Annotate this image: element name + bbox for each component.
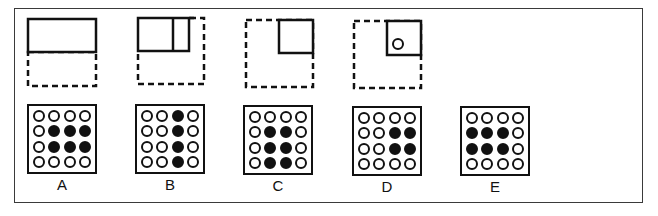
hole-filled-icon <box>280 157 292 169</box>
hole-filled-icon <box>466 143 478 155</box>
option-label: D <box>352 179 422 195</box>
hole-empty-icon <box>141 110 153 122</box>
fold-step-3 <box>246 20 314 88</box>
hole-empty-icon <box>404 112 416 124</box>
hole-empty-icon <box>64 110 76 122</box>
fold-step-2-drawing <box>138 18 206 86</box>
hole-filled-icon <box>79 141 91 153</box>
hole-empty-icon <box>249 126 261 138</box>
folded-paper-square <box>279 20 313 53</box>
hole-filled-icon <box>172 141 184 153</box>
hole-grid <box>135 104 205 174</box>
hole-empty-icon <box>512 127 524 139</box>
hole-filled-icon <box>389 143 401 155</box>
hole-empty-icon <box>373 127 385 139</box>
hole-empty-icon <box>404 158 416 170</box>
dashed-outline <box>28 52 96 86</box>
hole-empty-icon <box>389 112 401 124</box>
hole-empty-icon <box>33 110 45 122</box>
hole-filled-icon <box>264 142 276 154</box>
hole-filled-icon <box>172 110 184 122</box>
hole-filled-icon <box>172 156 184 168</box>
hole-empty-icon <box>249 142 261 154</box>
hole-empty-icon <box>497 112 509 124</box>
hole-empty-icon <box>512 143 524 155</box>
hole-empty-icon <box>373 143 385 155</box>
hole-empty-icon <box>141 156 153 168</box>
hole-empty-icon <box>481 158 493 170</box>
hole-empty-icon <box>141 125 153 137</box>
hole-filled-icon <box>48 141 60 153</box>
hole-empty-icon <box>33 125 45 137</box>
hole-filled-icon <box>64 141 76 153</box>
fold-step-2 <box>138 18 206 86</box>
fold-step-3-drawing <box>246 20 314 88</box>
hole-filled-icon <box>264 126 276 138</box>
fold-step-1 <box>28 19 96 87</box>
hole-empty-icon <box>295 157 307 169</box>
hole-empty-icon <box>295 111 307 123</box>
hole-empty-icon <box>156 156 168 168</box>
punched-hole-icon <box>393 39 403 49</box>
hole-filled-icon <box>79 125 91 137</box>
hole-empty-icon <box>249 111 261 123</box>
folded-paper-square <box>387 21 421 55</box>
hole-filled-icon <box>497 143 509 155</box>
fold-step-4 <box>354 21 422 89</box>
hole-empty-icon <box>466 112 478 124</box>
hole-empty-icon <box>156 141 168 153</box>
hole-grid <box>243 105 313 175</box>
option-label: C <box>243 178 313 194</box>
hole-empty-icon <box>358 127 370 139</box>
hole-filled-icon <box>172 125 184 137</box>
hole-filled-icon <box>466 127 478 139</box>
option-label: A <box>27 177 97 193</box>
hole-empty-icon <box>79 156 91 168</box>
hole-empty-icon <box>373 112 385 124</box>
hole-empty-icon <box>358 112 370 124</box>
hole-grid <box>460 106 530 176</box>
fold-step-4-drawing <box>354 21 422 89</box>
hole-filled-icon <box>264 157 276 169</box>
hole-filled-icon <box>280 126 292 138</box>
hole-empty-icon <box>512 158 524 170</box>
hole-empty-icon <box>79 110 91 122</box>
hole-filled-icon <box>497 127 509 139</box>
hole-empty-icon <box>156 110 168 122</box>
hole-filled-icon <box>48 125 60 137</box>
hole-filled-icon <box>481 127 493 139</box>
hole-filled-icon <box>64 125 76 137</box>
hole-empty-icon <box>466 158 478 170</box>
hole-empty-icon <box>249 157 261 169</box>
option-b[interactable]: B <box>135 104 205 193</box>
hole-empty-icon <box>358 143 370 155</box>
hole-empty-icon <box>64 156 76 168</box>
hole-empty-icon <box>48 156 60 168</box>
hole-grid <box>352 106 422 176</box>
hole-grid <box>27 104 97 174</box>
hole-empty-icon <box>295 126 307 138</box>
hole-empty-icon <box>264 111 276 123</box>
option-a[interactable]: A <box>27 104 97 193</box>
hole-filled-icon <box>404 143 416 155</box>
hole-empty-icon <box>358 158 370 170</box>
hole-empty-icon <box>280 111 292 123</box>
option-label: E <box>460 179 530 195</box>
hole-empty-icon <box>187 141 199 153</box>
option-e[interactable]: E <box>460 106 530 195</box>
hole-empty-icon <box>295 142 307 154</box>
hole-empty-icon <box>187 125 199 137</box>
hole-empty-icon <box>156 125 168 137</box>
hole-empty-icon <box>141 141 153 153</box>
folded-paper-rect <box>28 19 96 52</box>
hole-empty-icon <box>512 112 524 124</box>
option-label: B <box>135 177 205 193</box>
option-d[interactable]: D <box>352 106 422 195</box>
hole-filled-icon <box>404 127 416 139</box>
hole-empty-icon <box>33 141 45 153</box>
hole-empty-icon <box>389 158 401 170</box>
hole-filled-icon <box>389 127 401 139</box>
option-c[interactable]: C <box>243 105 313 194</box>
figure-frame <box>14 8 643 203</box>
folded-paper-rect <box>138 18 189 51</box>
